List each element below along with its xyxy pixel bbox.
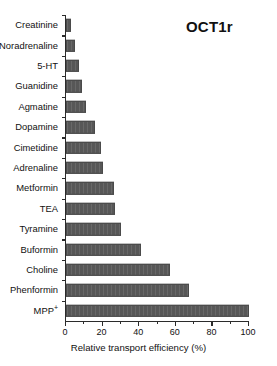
- y-axis-tick: [62, 97, 66, 98]
- bar-row: Choline: [65, 260, 248, 280]
- bar-category-label: MPP+: [34, 306, 58, 315]
- bar-category-label: TEA: [40, 204, 58, 213]
- y-axis-tick: [62, 56, 66, 57]
- x-axis-tick-label: 40: [133, 327, 143, 337]
- bar-row: MPP+: [65, 301, 248, 321]
- y-axis-tick: [62, 178, 66, 179]
- bar-row: Guanidine: [65, 76, 248, 96]
- bar-chart-figure: OCT1r CreatinineNoradrenaline5-HTGuanidi…: [0, 0, 277, 366]
- bar: [66, 305, 249, 317]
- bar-category-label: Noradrenaline: [0, 41, 58, 50]
- x-axis-tick: [175, 321, 176, 326]
- bar: [66, 80, 82, 92]
- bar: [66, 121, 95, 133]
- bar-category-label: Buformin: [20, 245, 58, 254]
- x-axis-tick-label: 20: [97, 327, 107, 337]
- bar-row: Noradrenaline: [65, 35, 248, 55]
- bar: [66, 60, 79, 72]
- bar-category-label: Cimetidine: [14, 143, 58, 152]
- x-axis-minor-tick: [193, 321, 194, 324]
- bar-category-label: Agmatine: [18, 102, 58, 111]
- bar-category-label: Dopamine: [15, 122, 58, 131]
- bar: [66, 243, 141, 255]
- y-axis-tick: [62, 117, 66, 118]
- bar: [66, 203, 115, 215]
- y-axis-tick: [62, 15, 66, 16]
- bar-row: Phenformin: [65, 280, 248, 300]
- bar-row: Agmatine: [65, 97, 248, 117]
- y-axis-tick: [62, 76, 66, 77]
- y-axis-tick: [62, 280, 66, 281]
- bar-row: Adrenaline: [65, 158, 248, 178]
- x-axis-tick: [248, 321, 249, 326]
- x-axis-tick-label: 80: [206, 327, 216, 337]
- bar-row: Cimetidine: [65, 137, 248, 157]
- x-axis-minor-tick: [230, 321, 231, 324]
- bar-category-label: Choline: [26, 265, 58, 274]
- bar: [66, 264, 170, 276]
- x-axis-minor-tick: [120, 321, 121, 324]
- y-axis-tick: [62, 260, 66, 261]
- y-axis-tick: [62, 199, 66, 200]
- bar-row: TEA: [65, 199, 248, 219]
- bar-category-label: Metformin: [16, 184, 58, 193]
- x-axis-tick-label: 0: [62, 327, 67, 337]
- x-axis-tick: [138, 321, 139, 326]
- bar-row: Metformin: [65, 178, 248, 198]
- bar: [66, 284, 189, 296]
- bar: [66, 223, 121, 235]
- y-axis-tick: [62, 239, 66, 240]
- bar-row: 5-HT: [65, 56, 248, 76]
- x-axis-tick: [211, 321, 212, 326]
- bar: [66, 19, 71, 31]
- bar-row: Tyramine: [65, 219, 248, 239]
- y-axis-tick: [62, 158, 66, 159]
- x-axis-title: Relative transport efficiency (%): [0, 342, 277, 353]
- bar-row: Creatinine: [65, 15, 248, 35]
- bar: [66, 162, 103, 174]
- bar-category-label: Adrenaline: [13, 163, 58, 172]
- bar: [66, 182, 114, 194]
- y-axis-tick: [62, 219, 66, 220]
- bar: [66, 141, 101, 153]
- x-axis-tick-label: 60: [170, 327, 180, 337]
- bar: [66, 39, 75, 51]
- plot-area: CreatinineNoradrenaline5-HTGuanidineAgma…: [65, 15, 248, 321]
- bar-category-label: Phenformin: [10, 286, 58, 295]
- bar-row: Buformin: [65, 239, 248, 259]
- y-axis-tick: [62, 137, 66, 138]
- bar-row: Dopamine: [65, 117, 248, 137]
- bar-category-label: Guanidine: [15, 82, 58, 91]
- x-axis-tick: [65, 321, 66, 326]
- bar-category-label: Creatinine: [15, 20, 58, 29]
- bar-category-label: 5-HT: [37, 61, 58, 70]
- y-axis-tick: [62, 301, 66, 302]
- x-axis-tick: [102, 321, 103, 326]
- x-axis-tick-label: 100: [240, 327, 255, 337]
- x-axis-minor-tick: [157, 321, 158, 324]
- y-axis-tick: [62, 35, 66, 36]
- bar: [66, 101, 86, 113]
- bar-category-label: Tyramine: [19, 224, 58, 233]
- x-axis-minor-tick: [83, 321, 84, 324]
